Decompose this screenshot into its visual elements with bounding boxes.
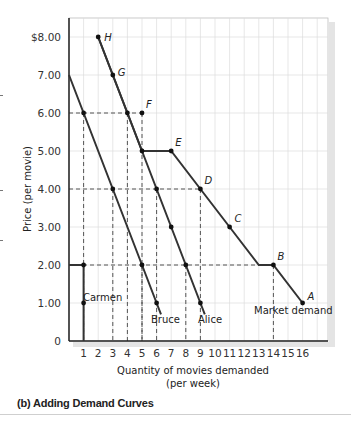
bruce-label: Bruce [151,314,180,325]
point-label-a: A [307,291,315,302]
data-point [183,263,188,268]
data-point [154,301,159,306]
demand-chart: HGFEDCBACarmenBruceAliceMarket demand01.… [0,0,351,423]
plot-shadow-right [329,22,335,347]
figure-caption: (b) Adding Demand Curves [17,397,154,409]
data-point [140,263,145,268]
y-tick-label: 6.00 [38,107,61,119]
point-label-g: G [118,67,126,78]
y-tick-label: $8.00 [31,31,61,43]
y-tick-label: 1.00 [38,297,61,309]
point-label-h: H [104,32,112,43]
divider [0,414,351,415]
x-tick-label: 2 [95,347,102,359]
data-point [227,225,232,230]
point-label-e: E [175,137,182,148]
data-point [169,149,174,154]
x-tick-label: 3 [109,347,116,359]
point-label-c: C [235,213,242,224]
x-tick-label: 5 [139,347,146,359]
x-tick-label: 11 [223,347,236,359]
x-tick-label: 8 [182,347,189,359]
data-point [81,111,86,116]
x-tick-label: 9 [197,347,204,359]
y-tick-label: 5.00 [38,145,61,157]
data-point [198,301,203,306]
data-point [110,73,115,78]
page-edge-mark [0,240,3,241]
market-demand-label: Market demand [254,305,333,316]
x-tick-label: 4 [124,347,131,359]
y-tick-label: 3.00 [38,221,61,233]
x-tick-label: 14 [267,347,281,359]
y-axis-label: Price (per movie) [22,146,33,232]
x-tick-label: 7 [168,347,175,359]
x-tick-label: 6 [153,347,160,359]
point-label-d: D [204,175,212,186]
y-tick-label: 7.00 [38,69,61,81]
x-tick-label: 16 [296,347,310,359]
x-axis-label: Quantity of movies demanded [117,365,269,376]
page-edge-mark [0,190,3,191]
data-point [140,111,145,116]
x-tick-label: 12 [238,347,251,359]
point-label-f: F [146,99,152,110]
data-point [154,187,159,192]
data-point [96,35,101,40]
x-tick-label: 15 [281,347,294,359]
page-edge-mark [0,95,3,96]
data-point [140,149,145,154]
data-point [169,225,174,230]
x-axis-sublabel: (per week) [166,378,220,389]
alice-label: Alice [198,314,222,325]
data-point [198,187,203,192]
x-tick-label: 1 [80,347,87,359]
carmen-label: Carmen [83,292,122,303]
y-tick-label: 4.00 [38,183,61,195]
point-label-b: B [277,251,284,262]
data-point [271,263,276,268]
y-tick-label: 0 [54,335,61,347]
x-tick-label: 13 [252,347,265,359]
data-point [110,187,115,192]
data-point [125,111,130,116]
y-tick-label: 2.00 [38,259,61,271]
x-tick-label: 10 [208,347,221,359]
data-point [81,263,86,268]
